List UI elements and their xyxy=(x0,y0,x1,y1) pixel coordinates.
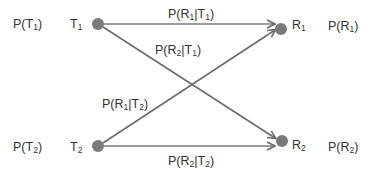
node-t1-label: T1 xyxy=(70,18,82,32)
node-r1-label: R1 xyxy=(292,19,306,33)
prob-r1-label: P(R1) xyxy=(328,20,358,34)
channel-diagram: P(T1) P(T2) T1 T2 R1 R2 P(R1) P(R2) P(R1… xyxy=(0,0,375,178)
node-t1 xyxy=(92,18,104,30)
edge-t1-r1-label: P(R1|T1) xyxy=(168,8,214,22)
node-r1 xyxy=(275,23,287,35)
prob-r2-label: P(R2) xyxy=(328,141,358,155)
node-t2-label: T2 xyxy=(70,141,82,155)
node-t2 xyxy=(92,140,104,152)
node-r2 xyxy=(276,135,288,147)
diagram-graphics xyxy=(0,0,375,178)
edge-t2-r1-label: P(R1|T2) xyxy=(102,98,148,112)
edge-t2-r2-label: P(R2|T2) xyxy=(168,155,214,169)
node-r2-label: R2 xyxy=(292,139,306,153)
prob-t2-label: P(T2) xyxy=(13,141,42,155)
edge-t1-r2-label: P(R2|T1) xyxy=(155,44,201,58)
prob-t1-label: P(T1) xyxy=(13,18,42,32)
